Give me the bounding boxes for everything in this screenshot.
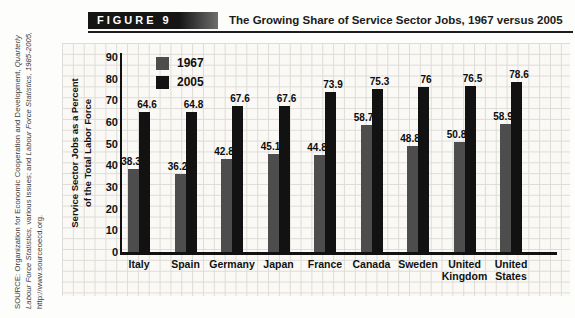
legend-item-2005: 2005 <box>156 75 204 89</box>
bar-2005-germany <box>232 106 243 252</box>
bar-1967-spain <box>175 174 186 252</box>
source-text: SOURCE: Organization for Economic Cooper… <box>13 69 22 309</box>
value-label-2005: 64.6 <box>129 99 165 110</box>
bar-1967-germany <box>221 159 232 252</box>
bar-1967-japan <box>268 154 279 252</box>
bar-2005-spain <box>186 112 197 252</box>
y-tick-label: 90 <box>86 50 118 64</box>
bar-1967-united-states <box>500 124 511 252</box>
figure-title: The Growing Share of Service Sector Jobs… <box>229 13 569 28</box>
y-tick-label: 70 <box>86 93 118 107</box>
value-label-2005: 75.3 <box>362 76 398 87</box>
legend-item-1967: 1967 <box>156 56 204 70</box>
figure-panel: SOURCE: Organization for Economic Cooper… <box>0 0 575 318</box>
y-tick-label: 60 <box>86 115 118 129</box>
y-tick-label: 0 <box>86 245 118 259</box>
bar-1967-italy <box>128 169 139 252</box>
y-tick-label: 20 <box>86 202 118 216</box>
bar-2005-canada <box>372 89 383 252</box>
value-label-2005: 76.5 <box>455 73 491 84</box>
header-rule <box>88 31 573 33</box>
value-label-2005: 78.6 <box>501 69 537 80</box>
value-label-2005: 64.8 <box>176 99 212 110</box>
value-label-2005: 73.9 <box>315 79 351 90</box>
y-tick-label: 50 <box>86 137 118 151</box>
source-note: SOURCE: Organization for Economic Cooper… <box>12 13 46 309</box>
y-axis-line <box>120 53 122 252</box>
legend-label-1967: 1967 <box>177 56 204 70</box>
bar-2005-united-states <box>511 82 522 252</box>
bar-2005-united-kingdom <box>465 86 476 252</box>
bar-1967-france <box>314 155 325 252</box>
bar-2005-france <box>325 92 336 252</box>
bar-1967-canada <box>361 125 372 252</box>
bar-1967-sweden <box>407 146 418 252</box>
x-category-label: United States <box>483 258 539 282</box>
y-tick-label: 10 <box>86 223 118 237</box>
value-label-2005: 67.6 <box>269 93 305 104</box>
figure-number-badge: FIGURE 9 <box>88 12 218 29</box>
bar-2005-sweden <box>418 87 429 252</box>
bar-2005-italy <box>139 112 150 252</box>
value-label-2005: 76 <box>408 74 444 85</box>
legend-swatch-1967 <box>156 57 169 70</box>
bar-1967-united-kingdom <box>454 142 465 252</box>
bar-2005-japan <box>279 106 290 252</box>
legend: 1967 2005 <box>156 56 204 94</box>
value-label-2005: 67.6 <box>222 93 258 104</box>
y-tick-label: 80 <box>86 72 118 86</box>
x-axis-line <box>120 252 557 255</box>
y-tick-label: 30 <box>86 180 118 194</box>
legend-label-2005: 2005 <box>177 75 204 89</box>
legend-swatch-2005 <box>156 76 169 89</box>
